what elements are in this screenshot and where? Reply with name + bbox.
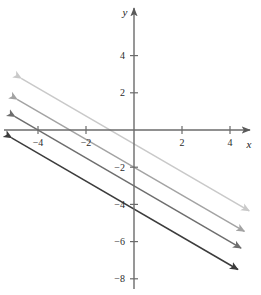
plotted-line-1 xyxy=(21,78,249,211)
x-tick-label: 2 xyxy=(180,137,185,148)
y-tick-label: −6 xyxy=(114,236,125,247)
axes-group xyxy=(4,8,250,289)
y-tick-label: −4 xyxy=(114,199,125,210)
y-tick-label: 2 xyxy=(120,87,125,98)
plotted-line-3 xyxy=(15,117,241,249)
plotted-line-2 xyxy=(17,99,244,231)
graph-canvas: −4−224 42−2−4−6−8 x y xyxy=(0,0,261,295)
plotted-lines-group xyxy=(12,78,250,269)
x-tick-label: −4 xyxy=(33,137,44,148)
y-tick-label: −8 xyxy=(114,273,125,284)
x-tick-label: 4 xyxy=(228,137,233,148)
coordinate-plane-figure: −4−224 42−2−4−6−8 x y xyxy=(0,0,261,295)
y-axis-label: y xyxy=(122,6,128,18)
y-tick-label: 4 xyxy=(120,50,125,61)
x-axis-label: x xyxy=(246,138,252,150)
y-tick-label: −2 xyxy=(114,162,125,173)
x-tick-label: −2 xyxy=(81,137,92,148)
